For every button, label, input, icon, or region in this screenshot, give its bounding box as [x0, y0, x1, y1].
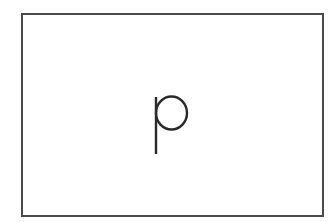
letter-card: p — [0, 0, 334, 222]
letter-p-bowl — [156, 97, 187, 130]
